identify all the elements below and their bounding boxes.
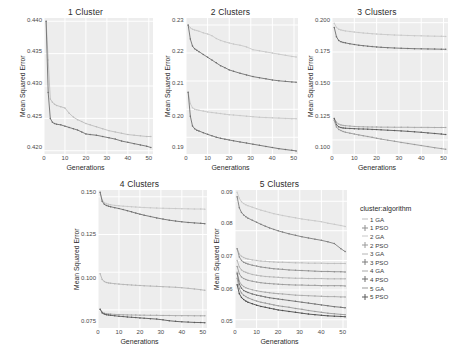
y-tick-label: 0.175 xyxy=(315,48,330,54)
series-line xyxy=(333,117,446,128)
plus-marker-icon xyxy=(360,241,369,249)
x-tick-label: 0 xyxy=(233,328,236,337)
x-axis-ticks: 01020304050 xyxy=(163,154,298,163)
x-tick-label: 50 xyxy=(290,154,297,163)
y-tick-label: 0.05 xyxy=(221,318,233,324)
x-axis: 01020304050 Generations xyxy=(306,154,448,173)
x-tick-label: 30 xyxy=(296,328,303,337)
x-tick-label: 10 xyxy=(253,328,260,337)
x-tick-label: 50 xyxy=(440,154,447,163)
x-axis: 01020304050 Generations xyxy=(72,328,207,346)
x-tick-label: 20 xyxy=(137,328,144,337)
x-tick-label: 50 xyxy=(199,328,206,337)
y-tick-label: 0.09 xyxy=(221,189,233,195)
y-tick-label: 0.440 xyxy=(27,17,42,23)
y-tick-label: 0.100 xyxy=(315,144,330,150)
series-line xyxy=(236,192,346,228)
x-tick-label: 30 xyxy=(158,328,165,337)
panel-5-clusters: 5 Clusters Mean Squared Error 0.090.080.… xyxy=(212,178,347,340)
y-tick-label: 0.125 xyxy=(315,113,330,119)
y-tick-label: 0.420 xyxy=(27,144,42,150)
plot-area xyxy=(44,18,153,154)
y-tick-label: 0.07 xyxy=(221,253,233,259)
legend-item-label: 1 PSO xyxy=(370,224,388,231)
x-tick-label: 20 xyxy=(83,154,90,163)
legend-item-label: 5 PSO xyxy=(370,293,388,300)
y-tick-label: 0.425 xyxy=(27,113,42,119)
x-tick-label: 0 xyxy=(96,328,99,337)
y-tick-label: 0.08 xyxy=(221,220,233,226)
y-tick-label: 0.150 xyxy=(315,80,330,86)
plot-area xyxy=(235,190,347,328)
x-tick-label: 10 xyxy=(116,328,123,337)
y-axis-ticks: 0.230.220.210.200.19 xyxy=(172,18,186,154)
x-axis-label: Generations xyxy=(212,337,347,346)
y-tick-label: 0.19 xyxy=(172,144,184,150)
x-tick-label: 30 xyxy=(396,154,403,163)
legend-item[interactable]: 3 GA xyxy=(360,249,450,258)
legend-item[interactable]: 2 GA xyxy=(360,232,450,241)
legend-item[interactable]: 4 PSO xyxy=(360,275,450,284)
x-tick-label: 20 xyxy=(373,154,380,163)
legend-item-label: 3 PSO xyxy=(370,259,388,266)
legend-item-label: 1 GA xyxy=(370,216,384,223)
series-line xyxy=(333,120,446,150)
series-line xyxy=(236,248,346,264)
x-tick-label: 0 xyxy=(330,154,333,163)
x-tick-label: 40 xyxy=(418,154,425,163)
y-axis-label: Mean Squared Error xyxy=(72,190,81,328)
plus-marker-icon xyxy=(360,224,369,232)
x-axis-ticks: 01020304050 xyxy=(212,328,347,337)
y-tick-label: 0.200 xyxy=(315,17,330,23)
legend-item[interactable]: 4 GA xyxy=(360,267,450,276)
legend-item-label: 4 GA xyxy=(370,267,384,274)
x-tick-label: 30 xyxy=(104,154,111,163)
series-line xyxy=(236,266,346,287)
dash-marker-icon xyxy=(360,232,369,240)
x-axis: 01020304050 Generations xyxy=(18,154,153,173)
x-tick-label: 30 xyxy=(247,154,254,163)
y-axis-ticks: 0.4400.4350.4300.4250.420 xyxy=(27,18,44,154)
x-axis-ticks: 01020304050 xyxy=(72,328,207,337)
legend-item[interactable]: 5 GA xyxy=(360,284,450,293)
legend-item[interactable]: 5 PSO xyxy=(360,292,450,301)
panel-4-clusters: 4 Clusters Mean Squared Error 0.1500.125… xyxy=(72,178,207,340)
legend-item-label: 2 PSO xyxy=(370,242,388,249)
legend-item[interactable]: 3 PSO xyxy=(360,258,450,267)
x-tick-label: 40 xyxy=(179,328,186,337)
plus-marker-icon xyxy=(360,258,369,266)
legend-item[interactable]: 1 PSO xyxy=(360,224,450,233)
y-axis-label: Mean Squared Error xyxy=(18,18,27,154)
legend-items: 1 GA1 PSO2 GA2 PSO3 GA3 PSO4 GA4 PSO5 GA… xyxy=(360,215,450,301)
x-axis-label: Generations xyxy=(72,337,207,346)
y-tick-label: 0.100 xyxy=(81,275,96,281)
legend-item[interactable]: 2 PSO xyxy=(360,241,450,250)
y-tick-label: 0.150 xyxy=(81,189,96,195)
y-tick-label: 0.23 xyxy=(172,17,184,23)
y-axis-ticks: 0.2000.1750.1500.1250.100 xyxy=(315,18,332,154)
legend-item[interactable]: 1 GA xyxy=(360,215,450,224)
y-tick-label: 0.430 xyxy=(27,80,42,86)
y-tick-label: 0.22 xyxy=(172,48,184,54)
legend-item-label: 4 PSO xyxy=(370,276,388,283)
series-line xyxy=(45,20,151,148)
y-tick-label: 0.06 xyxy=(221,286,233,292)
legend-item-label: 5 GA xyxy=(370,285,384,292)
plot-area xyxy=(332,18,448,154)
x-tick-label: 10 xyxy=(62,154,69,163)
dash-marker-icon xyxy=(360,267,369,275)
x-axis-ticks: 01020304050 xyxy=(18,154,153,163)
panel-3-clusters: 3 Clusters Mean Squared Error 0.2000.175… xyxy=(306,6,448,166)
legend-item-label: 2 GA xyxy=(370,233,384,240)
series-line xyxy=(236,196,346,252)
series-line xyxy=(333,27,446,50)
dash-marker-icon xyxy=(360,284,369,292)
series-line xyxy=(99,273,205,291)
x-axis: 01020304050 Generations xyxy=(212,328,347,346)
y-tick-label: 0.435 xyxy=(27,48,42,54)
y-tick-label: 0.20 xyxy=(172,113,184,119)
y-tick-label: 0.075 xyxy=(81,318,96,324)
x-tick-label: 10 xyxy=(204,154,211,163)
series-line xyxy=(45,20,151,137)
series-line xyxy=(333,23,446,38)
